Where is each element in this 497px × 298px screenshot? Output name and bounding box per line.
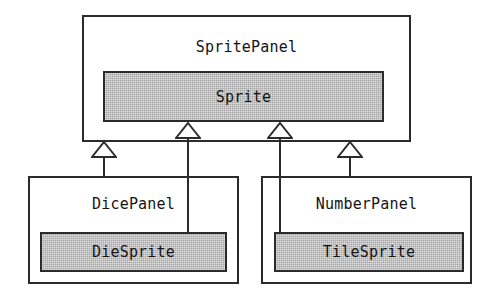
generalization-line-die-sprite-to-sprite: [187, 139, 189, 232]
class-box-sprite[interactable]: Sprite: [103, 71, 384, 122]
class-label-sprite: Sprite: [105, 89, 382, 104]
uml-class-diagram: SpritePanel Sprite DicePanel DieSprite N…: [0, 0, 497, 298]
generalization-arrowhead-number-panel-to-sprite-panel: [337, 141, 363, 158]
class-box-die-sprite[interactable]: DieSprite: [40, 232, 227, 272]
class-label-number-panel: NumberPanel: [263, 197, 470, 212]
generalization-arrowhead-dice-panel-to-sprite-panel: [91, 141, 117, 158]
class-label-dice-panel: DicePanel: [30, 197, 237, 212]
generalization-arrowhead-die-sprite-to-sprite: [175, 122, 201, 139]
generalization-line-tile-sprite-to-sprite: [279, 139, 281, 232]
generalization-line-number-panel-to-sprite-panel: [349, 158, 351, 176]
generalization-arrowhead-tile-sprite-to-sprite: [267, 122, 293, 139]
class-label-tile-sprite: TileSprite: [276, 245, 462, 260]
class-label-sprite-panel: SpritePanel: [84, 40, 409, 55]
generalization-line-dice-panel-to-sprite-panel: [103, 158, 105, 176]
class-label-die-sprite: DieSprite: [42, 245, 225, 260]
class-box-tile-sprite[interactable]: TileSprite: [274, 232, 464, 272]
